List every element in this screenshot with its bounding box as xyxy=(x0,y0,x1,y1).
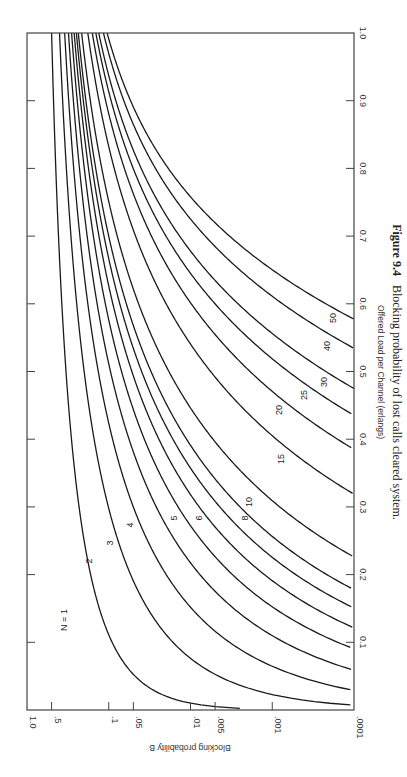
b-tick-label: 1.0 xyxy=(28,716,38,729)
curve-n-15 xyxy=(88,33,353,493)
curve-n-6 xyxy=(74,33,352,627)
load-tick-label: 0.9 xyxy=(358,94,368,107)
figure-number: Figure 9.4 xyxy=(390,224,404,276)
curve-n-1 xyxy=(52,33,240,708)
load-tick-label: 0.8 xyxy=(358,162,368,175)
curve-label-n-8: 8 xyxy=(240,515,250,520)
curve-n-3 xyxy=(65,33,351,690)
figure-caption: Figure 9.4 Blocking probability of lost … xyxy=(390,224,404,520)
x-axis-title: Offered Load per Channel (erlangs) xyxy=(376,305,386,439)
curve-label-n-40: 40 xyxy=(322,341,332,351)
curve-n-40 xyxy=(103,33,353,348)
curve-label-n-15: 15 xyxy=(276,454,286,464)
curve-n-7 xyxy=(76,33,351,607)
y-axis-title: Blocking probability B xyxy=(149,743,231,753)
curve-n-8 xyxy=(78,33,351,588)
load-tick-label: 0.5 xyxy=(358,365,368,378)
load-tick-label: 0.1 xyxy=(358,636,368,649)
curve-label-n-1: N = 1 xyxy=(59,609,69,631)
load-tick-label: 0.3 xyxy=(358,501,368,514)
svg-text:Figure 9.4 Blocking prob: Figure 9.4 Blocking probability of lost … xyxy=(390,224,404,520)
curve-label-n-3: 3 xyxy=(105,540,115,545)
load-tick-label: 0.6 xyxy=(358,298,368,311)
figure-caption-text: Blocking probability of lost calls clear… xyxy=(390,285,404,520)
load-tick-label: 0.4 xyxy=(358,433,368,446)
load-tick-label: 0.7 xyxy=(358,230,368,243)
curve-n-4 xyxy=(69,33,352,669)
curve-label-n-50: 50 xyxy=(328,313,338,323)
curve-label-n-30: 30 xyxy=(319,377,329,387)
b-tick-label: .05 xyxy=(134,716,144,729)
curve-label-n-25: 25 xyxy=(299,390,309,400)
b-tick-label: .005 xyxy=(216,716,226,734)
load-tick-label: 0.2 xyxy=(358,568,368,581)
curve-label-n-5: 5 xyxy=(169,515,179,520)
curve-label-n-6: 6 xyxy=(194,515,204,520)
b-tick-label: .1 xyxy=(110,716,120,724)
erlang-b-chart: N = 123456810152025304050 1.0.5.1.05.01.… xyxy=(0,0,407,777)
curve-n-5 xyxy=(72,33,351,647)
b-tick-label: .0001 xyxy=(355,716,365,739)
b-tick-label: .5 xyxy=(53,716,63,724)
blocking-axis-ticks: 1.0.5.1.05.01.005.001.0001 xyxy=(28,702,365,739)
curve-n-25 xyxy=(96,33,352,414)
curve-label-n-20: 20 xyxy=(274,405,284,415)
b-tick-label: .001 xyxy=(273,716,283,734)
curve-label-n-2: 2 xyxy=(84,558,94,563)
curve-label-n-4: 4 xyxy=(125,522,135,527)
load-axis-ticks: 0.10.20.30.40.50.60.70.80.91.0 xyxy=(27,27,368,649)
curve-label-n-10: 10 xyxy=(244,497,254,507)
load-tick-label: 1.0 xyxy=(358,27,368,40)
curve-group xyxy=(52,33,354,708)
b-tick-label: .01 xyxy=(192,716,202,729)
curve-n-10 xyxy=(82,33,353,556)
